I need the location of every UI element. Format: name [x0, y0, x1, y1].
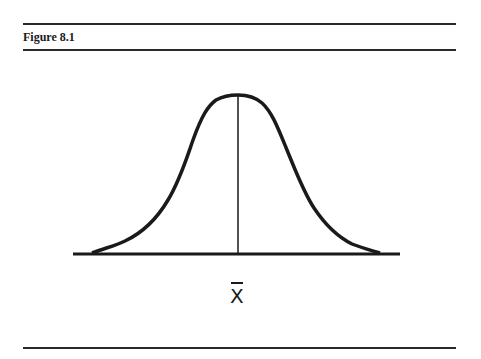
x-axis-label: X	[230, 284, 244, 308]
overbar	[231, 282, 243, 284]
x-label-text: X	[230, 284, 244, 308]
bottom-rule	[23, 347, 456, 349]
normal-curve	[92, 95, 380, 253]
